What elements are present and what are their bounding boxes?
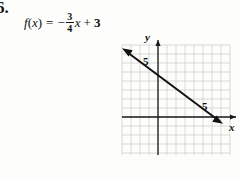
y-axis-tick-label-5: 5: [143, 55, 149, 67]
y-axis-arrowhead: [155, 40, 160, 46]
x-axis-arrowhead: [230, 114, 236, 119]
graph-svg: 5 5 y x: [110, 28, 239, 181]
y-axis: [155, 40, 160, 155]
equation-equals-sign: =: [46, 15, 53, 31]
y-axis-name-label: y: [143, 31, 150, 43]
fraction-denominator: 4: [66, 24, 73, 34]
problem-number: 6.: [0, 0, 9, 18]
x-axis-tick-label-5: 5: [202, 100, 208, 112]
equation-negative-sign: −: [57, 15, 64, 31]
equation-slope-variable: x: [75, 15, 81, 31]
equation-plus-sign: +: [84, 15, 91, 31]
coordinate-graph: 5 5 y x: [110, 28, 239, 181]
slope-fraction: 3 4: [66, 12, 74, 34]
x-axis-name-label: x: [228, 121, 235, 133]
function-line: [122, 48, 223, 123]
equation-constant: 3: [94, 15, 101, 31]
exercise-page: 6. f(x) = − 3 4 x + 3: [0, 0, 239, 181]
equation-paren-close: ): [38, 15, 42, 31]
fraction-numerator: 3: [66, 12, 73, 22]
function-equation: f(x) = − 3 4 x + 3: [24, 12, 100, 34]
